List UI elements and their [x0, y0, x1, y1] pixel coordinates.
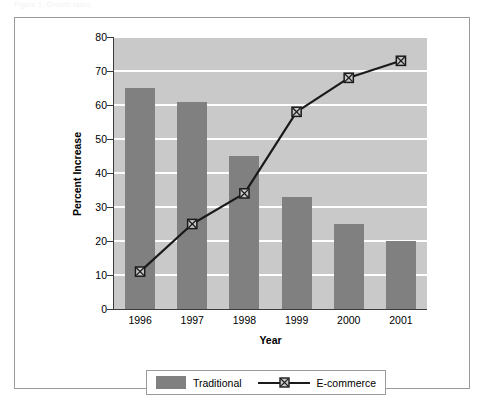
line-marker-boxed-x [240, 189, 249, 198]
y-tick-mark [107, 241, 113, 242]
chart-legend: Traditional E-commerce [146, 370, 386, 395]
y-tick-mark [107, 309, 113, 310]
y-tick-label: 30 [81, 201, 107, 213]
legend-label-traditional: Traditional [193, 377, 242, 389]
figure-caption: Figure 1. Growth rates [14, 1, 90, 8]
legend-item-ecommerce[interactable]: E-commerce [258, 377, 377, 389]
y-tick-label: 20 [81, 235, 107, 247]
legend-label-ecommerce: E-commerce [317, 377, 377, 389]
y-tick-label: 80 [81, 31, 107, 43]
y-tick-label: 50 [81, 133, 107, 145]
x-tick-label: 1996 [110, 314, 170, 326]
y-tick-mark [107, 139, 113, 140]
x-tick-label: 2000 [319, 314, 379, 326]
line-marker-boxed-x [344, 73, 353, 82]
line-marker-boxed-x [292, 107, 301, 116]
line-marker-boxed-x [188, 219, 197, 228]
x-tick-label: 2001 [371, 314, 431, 326]
y-tick-label: 0 [81, 303, 107, 315]
chart-frame: 01020304050607080 Percent Increase 19961… [14, 17, 470, 389]
line-marker-boxed-x [396, 56, 405, 65]
legend-item-traditional[interactable]: Traditional [156, 376, 242, 389]
y-tick-mark [107, 105, 113, 106]
y-tick-mark [107, 37, 113, 38]
y-tick-mark [107, 173, 113, 174]
legend-bar-swatch-icon [156, 376, 186, 389]
y-tick-mark [107, 275, 113, 276]
x-axis-line [114, 309, 427, 310]
line-marker-boxed-x [135, 267, 144, 276]
y-tick-mark [107, 207, 113, 208]
y-tick-mark [107, 71, 113, 72]
y-tick-label: 10 [81, 269, 107, 281]
line-series-ecommerce [114, 37, 427, 309]
x-axis-label: Year [114, 334, 427, 346]
y-tick-label: 60 [81, 99, 107, 111]
y-tick-label: 70 [81, 65, 107, 77]
y-axis-label: Percent Increase [71, 104, 83, 244]
x-tick-label: 1998 [214, 314, 274, 326]
x-tick-label: 1997 [162, 314, 222, 326]
x-tick-label: 1999 [267, 314, 327, 326]
legend-line-boxed-x-icon [258, 377, 310, 389]
y-tick-label: 40 [81, 167, 107, 179]
